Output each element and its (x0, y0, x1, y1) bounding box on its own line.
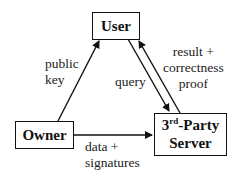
node-user: User (92, 12, 140, 40)
edge-label-data-signatures: data + signatures (85, 139, 140, 171)
node-server: 3rd-Party Server (154, 113, 227, 156)
node-owner-label: Owner (22, 128, 66, 143)
edge-label-query: query (115, 74, 146, 90)
edge-label-result-proof: result + correctness proof (163, 44, 224, 92)
node-server-label-line1: 3rd-Party (162, 118, 219, 133)
node-server-label-line2: Server (169, 136, 211, 151)
node-user-label: User (101, 19, 131, 34)
edge-label-public-key: public key (45, 56, 79, 88)
node-owner: Owner (15, 121, 74, 149)
